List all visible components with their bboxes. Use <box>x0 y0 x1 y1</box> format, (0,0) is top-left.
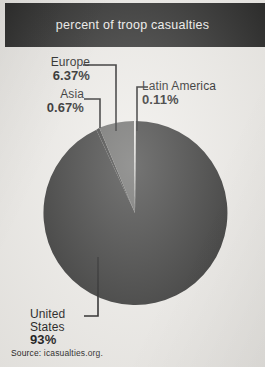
callout-latin-america-category: Latin America <box>142 80 234 93</box>
callout-europe: Europe 6.37% <box>28 56 90 82</box>
source-note: Source: icasualties.org. <box>11 348 103 358</box>
callout-latin-america-percent: 0.11% <box>142 93 234 107</box>
callout-asia: Asia 0.67% <box>16 88 84 114</box>
callout-united-states: United States 93% <box>30 308 86 347</box>
leader-line-asia <box>84 99 100 128</box>
pie-slice-united-states <box>43 121 227 305</box>
callout-europe-percent: 6.37% <box>28 69 90 83</box>
callout-united-states-percent: 93% <box>30 333 86 347</box>
chart-page: percent of troop casualties <box>0 0 265 367</box>
callout-latin-america: Latin America 0.11% <box>142 80 234 106</box>
callout-united-states-category-line1: United <box>30 308 86 321</box>
callout-asia-category: Asia <box>16 88 84 101</box>
callout-europe-category: Europe <box>28 56 90 69</box>
callout-asia-percent: 0.67% <box>16 101 84 115</box>
